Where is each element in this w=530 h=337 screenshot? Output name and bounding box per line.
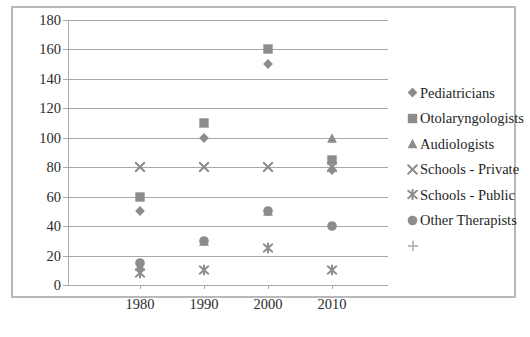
y-tick-mark [63,138,68,139]
data-point-diamond [135,206,146,217]
data-point-diamond [263,59,274,70]
y-tick-mark [63,285,68,286]
y-axis-tick-label: 20 [47,248,62,263]
gridline [68,20,388,21]
y-axis-tick-label: 60 [47,189,62,204]
gridline [68,197,388,198]
y-axis-line [68,20,69,285]
y-tick-mark [63,79,68,80]
y-axis-tick-label: 80 [47,160,62,175]
legend-item-schools-public[interactable]: Schools - Public [405,182,515,208]
circle-icon [405,215,420,226]
legend-item-label: Otolaryngologists [420,111,524,126]
gridline [68,285,388,286]
y-tick-mark [63,108,68,109]
data-point-square [327,154,338,165]
data-point-circle [135,257,146,268]
y-tick-mark [63,197,68,198]
plus-icon [405,240,420,252]
data-point-circle [263,206,274,217]
data-point-triangle [135,260,146,271]
data-point-circle [199,235,210,246]
gridline [68,108,388,109]
data-point-asterisk [199,265,210,276]
legend-item-label: Schools - Private [420,162,519,177]
legend-item-schools-private[interactable]: Schools - Private [405,157,515,183]
x-tick-mark [332,285,333,289]
data-point-asterisk [135,268,146,279]
plot-area: 020406080100120140160180 198019902000201… [68,20,388,285]
legend-item-label: Pediatricians [420,86,495,101]
data-point-asterisk [263,243,274,254]
triangle-icon [405,138,420,149]
data-point-triangle [263,206,274,217]
y-axis-tick-label: 120 [39,101,61,116]
legend-item-audiologists[interactable]: Audiologists [405,131,515,157]
y-tick-mark [63,49,68,50]
legend-item-label: Schools - Public [420,188,515,203]
data-point-triangle [199,235,210,246]
legend-item-label: Audiologists [420,137,494,152]
legend-item-label: Other Therapists [420,213,517,228]
x-icon [405,164,420,175]
x-axis-tick-label: 1980 [126,297,155,312]
y-tick-mark [63,167,68,168]
chart-legend: PediatriciansOtolaryngologistsAudiologis… [405,80,515,259]
diamond-icon [405,87,420,98]
y-axis-tick-label: 0 [54,278,61,293]
y-tick-mark [63,20,68,21]
y-axis-tick-label: 180 [39,13,61,28]
gridline [68,138,388,139]
x-axis-tick-label: 2000 [254,297,283,312]
y-axis-tick-label: 140 [39,72,61,87]
gridline [68,167,388,168]
gridline [68,79,388,80]
asterisk-icon [405,189,420,200]
chart-frame: 020406080100120140160180 198019902000201… [11,6,516,298]
x-tick-mark [204,285,205,289]
legend-item-other-therapists[interactable]: Other Therapists [405,208,515,234]
y-axis-tick-label: 40 [47,219,62,234]
data-point-asterisk [327,265,338,276]
square-icon [405,113,420,124]
gridline [68,256,388,257]
legend-item-unlabeled[interactable] [405,233,515,259]
y-axis-tick-label: 160 [39,42,61,57]
gridline [68,49,388,50]
gridline [68,226,388,227]
x-axis-tick-label: 2010 [318,297,347,312]
y-tick-mark [63,226,68,227]
legend-item-otolaryngologists[interactable]: Otolaryngologists [405,106,515,132]
x-tick-mark [268,285,269,289]
x-axis-tick-label: 1990 [190,297,219,312]
y-tick-mark [63,256,68,257]
y-axis-tick-label: 100 [39,131,61,146]
x-tick-mark [140,285,141,289]
data-point-square [199,118,210,129]
legend-item-pediatricians[interactable]: Pediatricians [405,80,515,106]
